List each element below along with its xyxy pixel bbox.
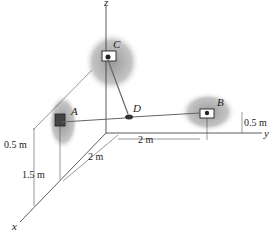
dim-05-b: 0.5 m: [244, 117, 267, 128]
z-label: z: [103, 0, 109, 8]
point-b-label: B: [217, 96, 224, 108]
bracket-a: [55, 114, 65, 126]
dim-2m-x: 2 m: [88, 151, 104, 162]
dim-05-a: 0.5 m: [4, 139, 27, 150]
dim-15: 1.5 m: [22, 169, 45, 180]
x-label: x: [11, 220, 17, 232]
dim-2m-y: 2 m: [138, 134, 154, 145]
point-d-label: D: [132, 102, 141, 114]
statics-diagram: z y x C A B D 0.5 m 1.5 m 2 m 2 m 0.5 m: [0, 0, 271, 234]
ring-d: [125, 115, 133, 120]
point-c-label: C: [113, 38, 121, 50]
y-label: y: [263, 127, 269, 139]
point-a-label: A: [70, 105, 78, 117]
wall-c: [84, 32, 140, 92]
